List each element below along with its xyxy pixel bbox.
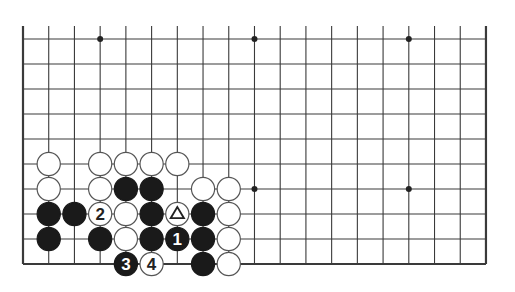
white-stone-move-2: 2 — [89, 202, 112, 225]
move-number: 3 — [121, 255, 130, 274]
black-stone — [63, 202, 86, 225]
white-stone — [114, 227, 137, 250]
white-stone — [166, 152, 189, 175]
white-stone — [114, 202, 137, 225]
star-point — [251, 36, 257, 42]
black-stone — [89, 227, 112, 250]
white-stone — [217, 227, 240, 250]
black-stone — [140, 202, 163, 225]
white-stone — [166, 202, 189, 225]
white-stone — [37, 177, 60, 200]
star-point — [251, 186, 257, 192]
star-point — [406, 186, 412, 192]
black-stone — [191, 227, 214, 250]
white-stone — [140, 152, 163, 175]
white-stone — [217, 177, 240, 200]
white-stone-move-4: 4 — [140, 252, 163, 275]
black-stone-move-3: 3 — [114, 252, 137, 275]
black-stone — [37, 202, 60, 225]
white-stone — [89, 152, 112, 175]
white-stone — [217, 202, 240, 225]
black-stone — [191, 202, 214, 225]
black-stone — [114, 177, 137, 200]
black-stone — [140, 177, 163, 200]
black-stone — [140, 227, 163, 250]
move-number: 1 — [173, 230, 182, 249]
white-stone — [114, 152, 137, 175]
move-number: 2 — [95, 205, 104, 224]
black-stone — [191, 252, 214, 275]
go-board: 2134 — [0, 0, 515, 292]
black-stone-move-1: 1 — [166, 227, 189, 250]
star-point — [406, 36, 412, 42]
black-stone — [37, 227, 60, 250]
white-stone — [89, 177, 112, 200]
white-stone — [217, 252, 240, 275]
white-stone — [37, 152, 60, 175]
board-grid — [23, 26, 486, 264]
star-point — [97, 36, 103, 42]
white-stone — [191, 177, 214, 200]
move-number: 4 — [147, 255, 157, 274]
